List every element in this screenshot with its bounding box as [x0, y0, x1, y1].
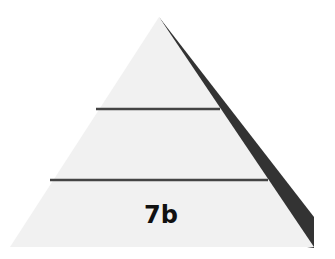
level-3-label: 7b: [144, 203, 178, 227]
